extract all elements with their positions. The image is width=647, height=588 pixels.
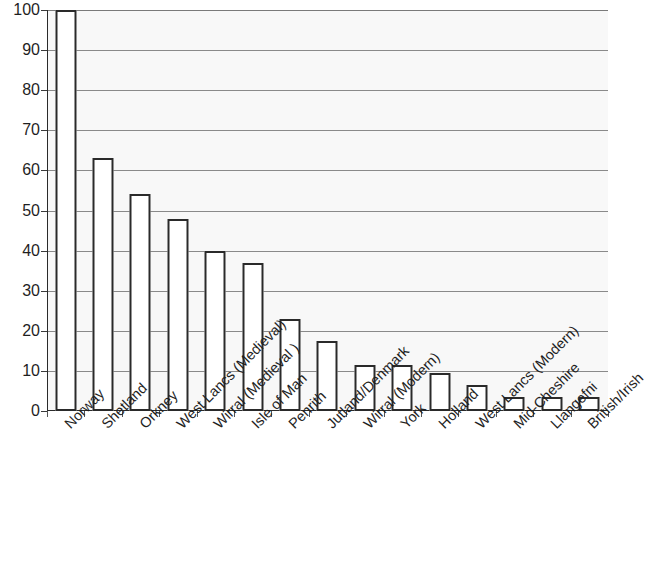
x-axis-labels: NorwayShetlandOrkneyWest Lancs (Medieval… <box>47 411 608 588</box>
bar-slot <box>571 10 608 411</box>
y-tick-label: 50 <box>0 203 40 219</box>
bar[interactable] <box>55 10 76 411</box>
bar-slot <box>84 10 121 411</box>
bar[interactable] <box>130 194 151 411</box>
bar-slot <box>346 10 383 411</box>
y-tick-label: 40 <box>0 243 40 259</box>
y-tick-label: 90 <box>0 42 40 58</box>
y-tick-label: 0 <box>0 403 40 419</box>
y-tick-label: 80 <box>0 82 40 98</box>
bar-slot <box>47 10 84 411</box>
y-tick-label: 60 <box>0 162 40 178</box>
bar-slot <box>159 10 196 411</box>
y-tick-label: 100 <box>0 2 40 18</box>
bar-slot <box>496 10 533 411</box>
y-tick-label: 10 <box>0 363 40 379</box>
bar[interactable] <box>93 158 114 411</box>
y-tick-label: 70 <box>0 122 40 138</box>
bar-slot <box>122 10 159 411</box>
y-tick-label: 30 <box>0 283 40 299</box>
bar[interactable] <box>429 373 450 411</box>
bar-slot <box>421 10 458 411</box>
bar-slot <box>458 10 495 411</box>
bars-layer <box>47 10 608 411</box>
y-tick-label: 20 <box>0 323 40 339</box>
bar-slot <box>309 10 346 411</box>
bar[interactable] <box>167 219 188 411</box>
bar-slot <box>197 10 234 411</box>
